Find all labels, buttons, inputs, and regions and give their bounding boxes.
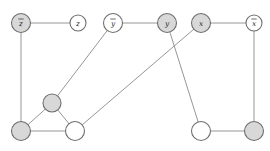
graph-node-unlabeled[interactable] bbox=[66, 122, 85, 141]
node-circle-empty[interactable] bbox=[246, 15, 262, 31]
graph-node-unlabeled[interactable] bbox=[12, 122, 31, 141]
graph-node-unlabeled[interactable] bbox=[245, 122, 264, 141]
graph-node-x[interactable]: x bbox=[192, 14, 211, 33]
node-circle-empty[interactable] bbox=[104, 14, 123, 33]
graph-edge bbox=[52, 23, 113, 103]
graph-node-z[interactable]: z bbox=[70, 15, 86, 31]
edge-layer bbox=[21, 23, 254, 131]
graph-node-unlabeled[interactable] bbox=[192, 122, 211, 141]
node-circle-empty[interactable] bbox=[70, 15, 86, 31]
node-circle-shaded[interactable] bbox=[245, 122, 264, 141]
node-circle-shaded[interactable] bbox=[43, 94, 61, 112]
graph-edge bbox=[75, 23, 201, 131]
graph-node-x-bar[interactable]: x bbox=[246, 15, 262, 31]
graph-edge bbox=[167, 23, 201, 131]
graph-node-unlabeled[interactable] bbox=[43, 94, 61, 112]
graph-node-z-bar[interactable]: z bbox=[12, 14, 31, 33]
graph-node-y-bar[interactable]: y bbox=[104, 14, 123, 33]
node-circle-empty[interactable] bbox=[192, 122, 211, 141]
graph-figure: zzyyxx bbox=[0, 0, 270, 151]
node-circle-shaded[interactable] bbox=[12, 122, 31, 141]
node-circle-shaded[interactable] bbox=[12, 14, 31, 33]
graph-canvas: zzyyxx bbox=[0, 0, 270, 151]
node-circle-shaded[interactable] bbox=[192, 14, 211, 33]
node-circle-empty[interactable] bbox=[66, 122, 85, 141]
graph-node-y[interactable]: y bbox=[158, 14, 177, 33]
node-circle-shaded[interactable] bbox=[158, 14, 177, 33]
